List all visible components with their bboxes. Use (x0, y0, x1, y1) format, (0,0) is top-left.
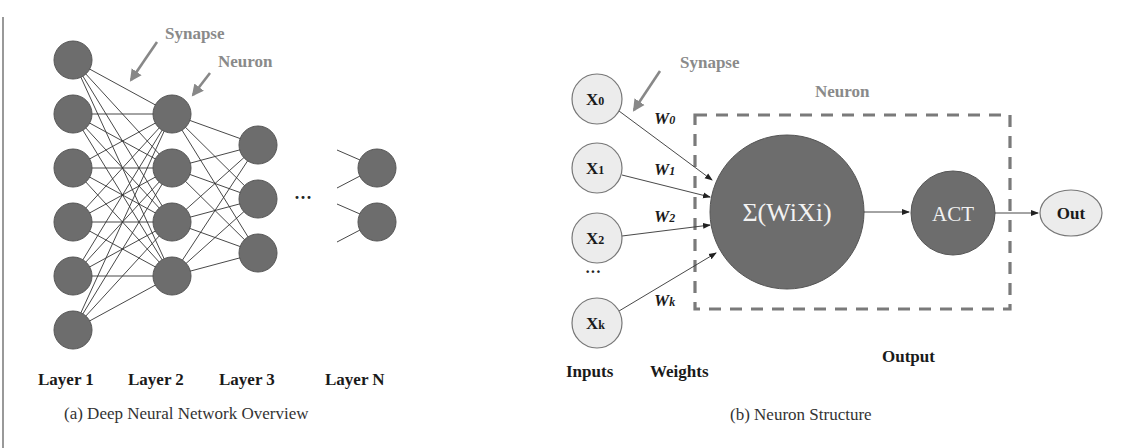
summation-node: Σ(WiXi) (710, 135, 864, 289)
weights-label: Weights (650, 362, 709, 381)
input-node-x0: X0 (572, 74, 622, 124)
neuron-node-layer4-1 (358, 149, 396, 187)
input-node-xk: Xk (572, 298, 622, 348)
neuron-node-layer1-1 (54, 41, 92, 79)
input-node-x1: X1 (572, 143, 622, 193)
activation-node: ACT (911, 171, 995, 255)
edge-x2 (622, 225, 710, 236)
weight-wk: Wk (654, 291, 675, 310)
neuron-node-layer1-2 (54, 95, 92, 133)
neuron-node-layer3-1 (239, 126, 277, 164)
synapse-edge (73, 168, 172, 330)
synapse-annotation-b: Synapse (680, 53, 740, 72)
neuron-node-layer1-6 (54, 311, 92, 349)
synapse-pointer-arrow-b (634, 71, 660, 110)
layer-1-label: Layer 1 (38, 370, 94, 389)
figure: ··· Synapse Neuron Layer 1 Layer 2 Layer… (0, 0, 1131, 448)
weight-w0: W0 (654, 109, 675, 128)
output-node: Out (1040, 190, 1102, 236)
neuron-node-layer2-2 (153, 149, 191, 187)
neuron-node-layer2-3 (153, 203, 191, 241)
ellipsis-between-layers: ··· (294, 188, 312, 208)
neuron-pointer-arrow (193, 73, 210, 95)
synapse-annotation: Synapse (165, 24, 225, 43)
neuron-node-layer1-4 (54, 203, 92, 241)
svg-text:Out: Out (1057, 204, 1086, 223)
panel-b-caption: (b) Neuron Structure (730, 405, 872, 424)
input-node-x2: X2 (572, 213, 622, 263)
panel-b-neuron-structure: Neuron Synapse X0 X1 X2 ··· Xk W0 W1 W2 (566, 53, 1102, 424)
output-label: Output (882, 347, 935, 366)
input-ellipsis: ··· (585, 263, 601, 280)
neuron-annotation: Neuron (218, 52, 273, 71)
neuron-node-layer1-5 (54, 257, 92, 295)
weight-w2: W2 (654, 207, 675, 226)
layer-n-label: Layer N (325, 370, 385, 389)
neuron-node-layer2-1 (153, 95, 191, 133)
panel-a-caption: (a) Deep Neural Network Overview (64, 404, 309, 423)
neuron-node-layer1-3 (54, 149, 92, 187)
weight-w1: W1 (654, 160, 675, 179)
svg-text:Σ(WiXi): Σ(WiXi) (742, 198, 831, 227)
synapse-pointer-arrow (131, 42, 157, 80)
svg-text:ACT: ACT (932, 202, 974, 226)
panel-a-deep-neural-network: ··· Synapse Neuron Layer 1 Layer 2 Layer… (38, 24, 396, 423)
layer-n-stub-edges (337, 150, 360, 242)
neuron-node-layer2-4 (153, 257, 191, 295)
neuron-node-layer3-2 (239, 180, 277, 218)
neuron-box-annotation: Neuron (815, 82, 870, 101)
neuron-node-layer3-3 (239, 234, 277, 272)
layer-2-label: Layer 2 (128, 370, 184, 389)
layer-3-label: Layer 3 (219, 370, 275, 389)
inputs-label: Inputs (566, 362, 614, 381)
neuron-node-layer4-2 (358, 203, 396, 241)
